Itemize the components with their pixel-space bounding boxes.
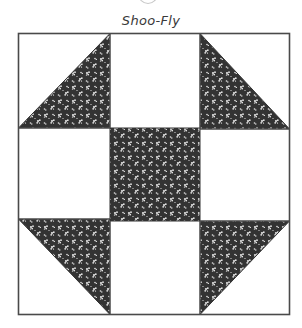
quilt-block — [0, 0, 302, 328]
patch-center-square — [110, 128, 200, 221]
